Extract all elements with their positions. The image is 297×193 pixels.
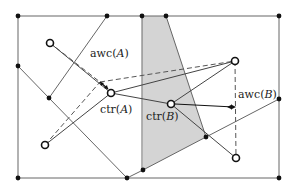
dashed-awc-b [235,61,236,158]
site-a-top [47,40,54,47]
site-b-bottom [233,155,240,162]
label-ctr-a: ctr(A) [100,103,132,116]
label-awc-a: awc(A) [90,47,129,60]
diagram-figure: awc(A) ctr(A) ctr(B) awc(B) [0,0,297,193]
awc-b-arrowhead-2 [227,105,232,110]
label-awc-b: awc(B) [238,88,277,101]
ctr-a-to-bottom-site [45,93,111,145]
site-a-bottom [42,142,49,149]
site-b-top [232,58,239,65]
ctr-b-point [168,101,175,108]
edge [127,170,143,178]
label-ctr-b: ctr(B) [146,110,179,123]
ctr-a-point [108,90,115,97]
edge [18,66,49,98]
diagram-canvas: awc(A) ctr(A) ctr(B) awc(B) [0,0,297,193]
edge [206,99,279,137]
open-sites [42,40,240,162]
